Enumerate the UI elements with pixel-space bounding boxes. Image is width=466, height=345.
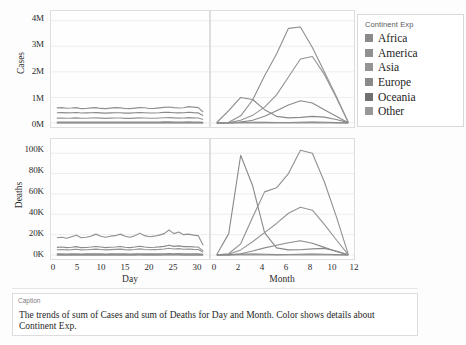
caption-text: The trends of sum of Cases and sum of De…: [13, 304, 417, 332]
ytick-deaths-5: 100K: [10, 144, 44, 154]
ytick-deaths-1: 20K: [10, 228, 44, 238]
legend-label-other: Other: [378, 105, 404, 117]
legend-item-africa[interactable]: Africa: [365, 31, 457, 46]
line-series-asia: [57, 118, 203, 120]
legend-label-africa: Africa: [378, 32, 407, 44]
legend-item-europe[interactable]: Europe: [365, 75, 457, 90]
legend-item-asia[interactable]: Asia: [365, 60, 457, 75]
xtick-day-2: 10: [91, 262, 111, 272]
ytick-deaths-3: 60K: [10, 186, 44, 196]
ytick-cases-3: 3M: [14, 39, 44, 49]
ytick-cases-1: 1M: [14, 93, 44, 103]
line-series-europe: [217, 97, 348, 122]
legend-item-america[interactable]: America: [365, 46, 457, 61]
line-series-asia: [217, 56, 348, 122]
line-series-europe: [217, 155, 348, 254]
xtick-month-4: 8: [300, 262, 320, 272]
legend-label-europe: Europe: [378, 76, 411, 88]
xtick-month-5: 10: [322, 262, 342, 272]
legend-swatch-africa: [365, 34, 373, 42]
caption-tag: Caption: [13, 294, 417, 304]
ytick-deaths-2: 40K: [10, 207, 44, 217]
panel-cases-by-month[interactable]: [210, 10, 355, 128]
xtick-day-4: 20: [139, 262, 159, 272]
ytick-deaths-0: 0K: [10, 249, 44, 259]
ytick-deaths-4: 80K: [10, 165, 44, 175]
legend-swatch-america: [365, 49, 373, 57]
legend-item-other[interactable]: Other: [365, 104, 457, 119]
legend-item-oceania[interactable]: Oceania: [365, 89, 457, 104]
xtick-month-0: 0: [204, 262, 224, 272]
line-series-asia: [57, 248, 203, 252]
xtick-month-3: 6: [276, 262, 296, 272]
xtick-month-1: 2: [228, 262, 248, 272]
legend-swatch-other: [365, 107, 373, 115]
ytick-cases-4: 4M: [14, 13, 44, 23]
axis-title-day: Day: [100, 274, 160, 284]
panel-deaths-by-day[interactable]: [50, 138, 210, 260]
xtick-day-0: 0: [43, 262, 63, 272]
xtick-day-3: 15: [115, 262, 135, 272]
legend-label-america: America: [378, 47, 418, 59]
line-series-africa: [57, 254, 203, 255]
xtick-day-1: 5: [67, 262, 87, 272]
panel-deaths-by-month[interactable]: [210, 138, 355, 260]
xtick-month-2: 4: [252, 262, 272, 272]
legend-continent-exp[interactable]: Continent Exp Africa America Asia Europe…: [357, 14, 464, 127]
legend-swatch-europe: [365, 78, 373, 86]
line-series-america: [57, 107, 203, 112]
visualization-page: Cases 4M 3M 2M 1M 0M Deaths 100K 80K 60K…: [0, 0, 466, 345]
line-series-africa: [217, 101, 348, 123]
legend-label-oceania: Oceania: [378, 91, 416, 103]
caption-card: Caption The trends of sum of Cases and s…: [12, 293, 418, 336]
axis-title-month: Month: [252, 274, 312, 284]
line-series-europe: [57, 112, 203, 115]
panel-cases-by-day[interactable]: [50, 10, 210, 128]
xtick-day-5: 25: [163, 262, 183, 272]
xtick-month-6: 12: [344, 262, 364, 272]
legend-swatch-asia: [365, 63, 373, 71]
line-series-america: [217, 150, 348, 255]
caption-divider: [12, 288, 418, 289]
legend-label-asia: Asia: [378, 61, 399, 73]
line-series-america: [57, 230, 203, 245]
legend-swatch-oceania: [365, 93, 373, 101]
chart-canvas: Cases 4M 3M 2M 1M 0M Deaths 100K 80K 60K…: [0, 0, 466, 288]
ytick-cases-0: 0M: [14, 119, 44, 129]
ytick-cases-2: 2M: [14, 66, 44, 76]
legend-title: Continent Exp: [365, 20, 457, 29]
